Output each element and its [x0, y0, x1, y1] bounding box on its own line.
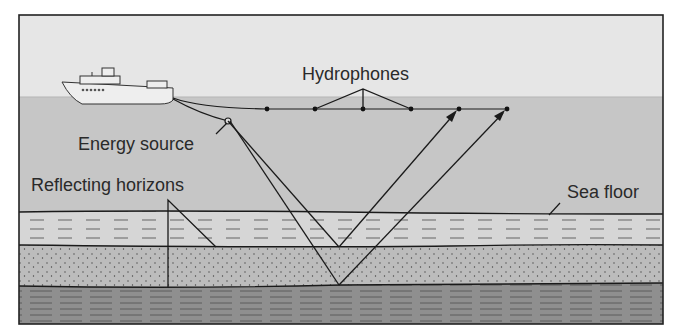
- hydrophones-label: Hydrophones: [302, 64, 409, 84]
- sea-floor-label: Sea floor: [567, 182, 639, 202]
- sand-layer: [19, 245, 663, 288]
- sediment-layer: [19, 211, 663, 247]
- seismic-diagram: Hydrophones Energy source Reflecting hor…: [0, 0, 673, 334]
- reflecting-horizons-label: Reflecting horizons: [31, 175, 184, 195]
- energy-source-label: Energy source: [78, 134, 194, 154]
- bedrock-layer: [19, 283, 663, 324]
